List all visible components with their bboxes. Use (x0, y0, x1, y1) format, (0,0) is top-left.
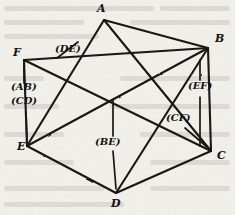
vertex-label-A: A (97, 3, 106, 14)
leader-CD (26, 112, 27, 141)
graph-canvas (0, 0, 235, 215)
edge-label-EF: (EF) (188, 81, 212, 92)
edge-label-CF: (CF) (166, 113, 191, 124)
edge-label-AB: (AB) (11, 82, 37, 93)
edge-label-DE: (DE) (55, 44, 81, 55)
vertex-label-F: F (13, 47, 21, 58)
edge-label-CD: (CD) (11, 96, 37, 107)
edge-label-BE: (BE) (95, 137, 121, 148)
vertex-label-D: D (111, 198, 121, 209)
vertex-label-B: B (215, 33, 225, 44)
vertex-label-E: E (17, 141, 26, 152)
vertex-label-C: C (217, 150, 226, 161)
